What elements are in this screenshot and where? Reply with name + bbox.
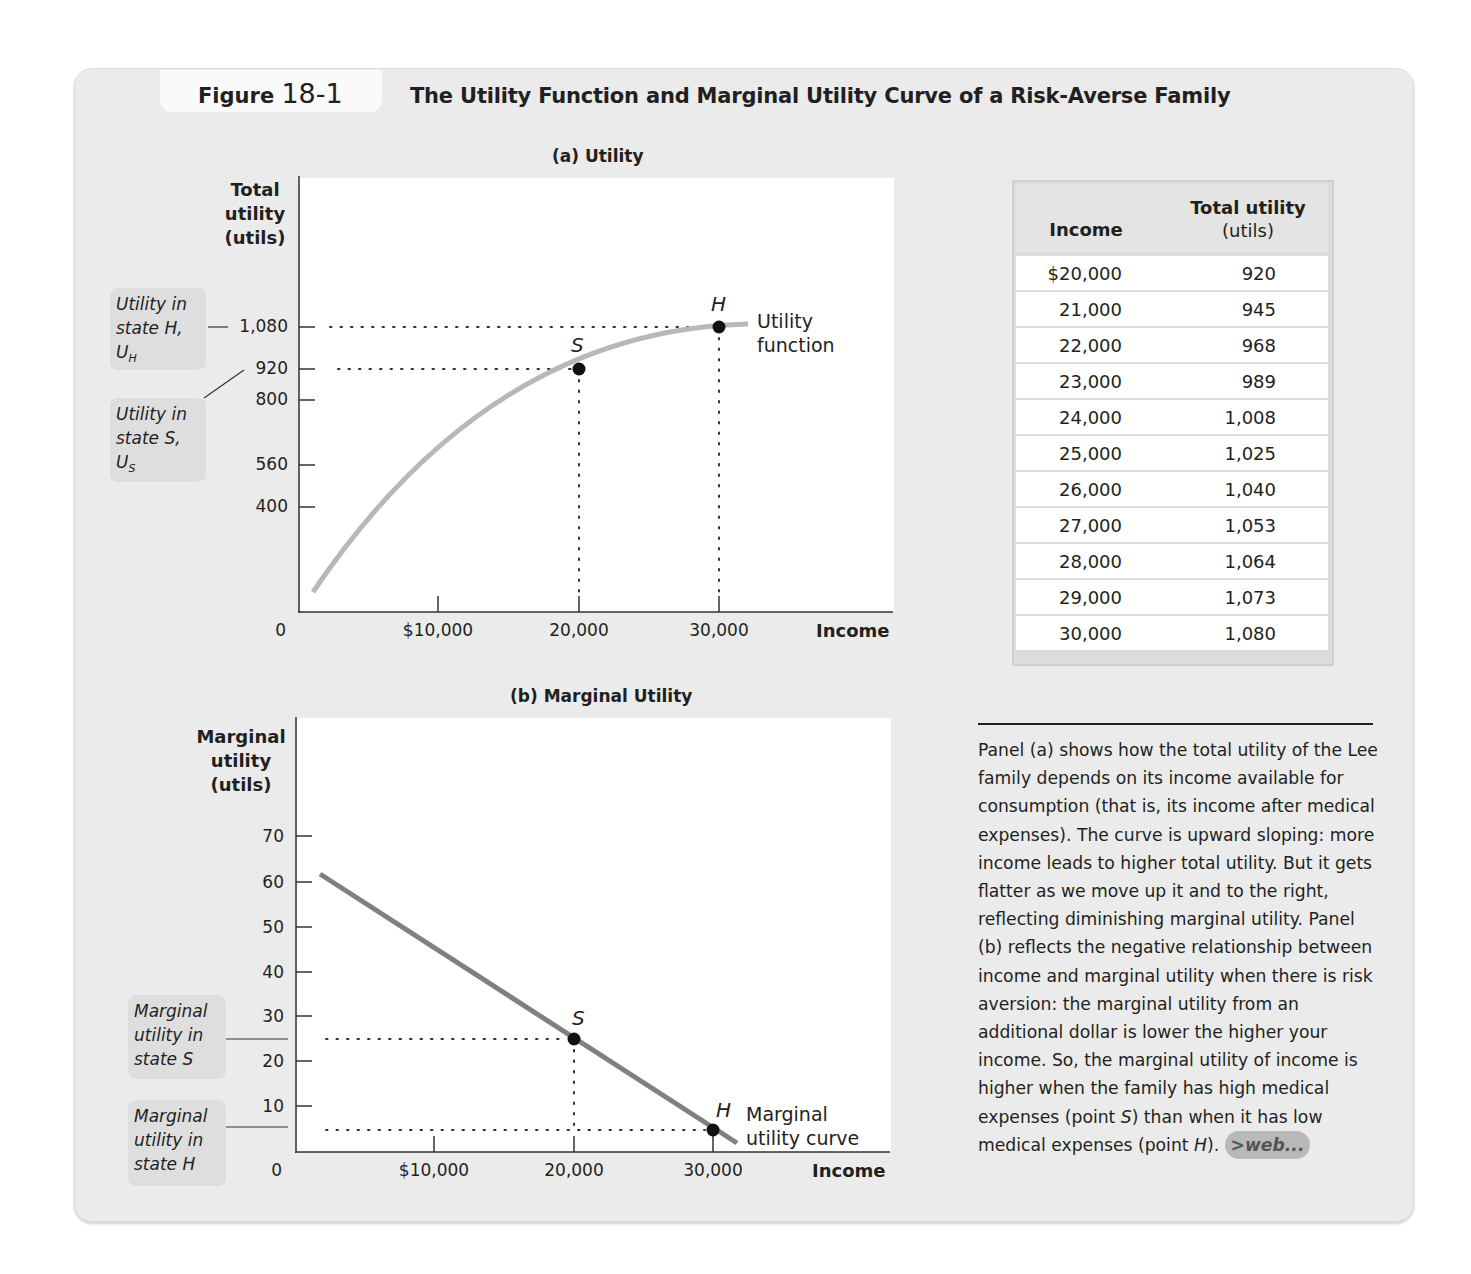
table-row: 23,000989 bbox=[1016, 364, 1328, 398]
point-h-marginal bbox=[707, 1124, 720, 1137]
cell-total-utility: 1,025 bbox=[1176, 443, 1276, 464]
panel-b-plot-area bbox=[297, 718, 891, 1152]
label-point-s-a: S bbox=[571, 333, 584, 357]
cell-income: $20,000 bbox=[1016, 263, 1122, 284]
point-s-utility bbox=[573, 363, 586, 376]
cell-total-utility: 945 bbox=[1176, 299, 1276, 320]
cell-total-utility: 1,008 bbox=[1176, 407, 1276, 428]
figure-caption: Panel (a) shows how the total utility of… bbox=[978, 736, 1378, 1159]
cell-total-utility: 1,040 bbox=[1176, 479, 1276, 500]
table-row: 26,0001,040 bbox=[1016, 472, 1328, 506]
table-row: 21,000945 bbox=[1016, 292, 1328, 326]
point-s-marginal bbox=[568, 1033, 581, 1046]
table-row: 28,0001,064 bbox=[1016, 544, 1328, 578]
utility-table: Income Total utility(utils) $20,00092021… bbox=[1012, 180, 1334, 666]
label-point-h-a: H bbox=[711, 292, 726, 316]
cell-total-utility: 968 bbox=[1176, 335, 1276, 356]
header-total-utility: Total utility(utils) bbox=[1178, 196, 1318, 242]
cell-income: 24,000 bbox=[1016, 407, 1122, 428]
cell-total-utility: 1,053 bbox=[1176, 515, 1276, 536]
table-row: 24,0001,008 bbox=[1016, 400, 1328, 434]
cell-total-utility: 920 bbox=[1176, 263, 1276, 284]
cell-income: 23,000 bbox=[1016, 371, 1122, 392]
cell-total-utility: 989 bbox=[1176, 371, 1276, 392]
point-h-utility bbox=[713, 321, 726, 334]
cell-income: 28,000 bbox=[1016, 551, 1122, 572]
cell-total-utility: 1,064 bbox=[1176, 551, 1276, 572]
label-point-s-b: S bbox=[572, 1006, 585, 1030]
cell-income: 22,000 bbox=[1016, 335, 1122, 356]
caption-divider bbox=[978, 723, 1373, 725]
table-row: 29,0001,073 bbox=[1016, 580, 1328, 614]
cell-income: 26,000 bbox=[1016, 479, 1122, 500]
header-income: Income bbox=[1026, 218, 1146, 241]
web-link[interactable]: >web... bbox=[1225, 1131, 1311, 1159]
cell-income: 27,000 bbox=[1016, 515, 1122, 536]
table-row: 22,000968 bbox=[1016, 328, 1328, 362]
label-point-h-b: H bbox=[716, 1098, 731, 1122]
cell-income: 21,000 bbox=[1016, 299, 1122, 320]
table-row: 27,0001,053 bbox=[1016, 508, 1328, 542]
table-header: Income Total utility(utils) bbox=[1016, 184, 1328, 252]
utility-function-label: Utilityfunction bbox=[757, 309, 835, 357]
cell-total-utility: 1,073 bbox=[1176, 587, 1276, 608]
cell-income: 29,000 bbox=[1016, 587, 1122, 608]
panel-a-plot-area bbox=[300, 178, 894, 612]
table-row: 25,0001,025 bbox=[1016, 436, 1328, 470]
cell-income: 30,000 bbox=[1016, 623, 1122, 644]
cell-income: 25,000 bbox=[1016, 443, 1122, 464]
table-row: $20,000920 bbox=[1016, 256, 1328, 290]
table-row: 30,0001,080 bbox=[1016, 616, 1328, 650]
cell-total-utility: 1,080 bbox=[1176, 623, 1276, 644]
marginal-utility-curve-label: Marginalutility curve bbox=[746, 1102, 859, 1150]
